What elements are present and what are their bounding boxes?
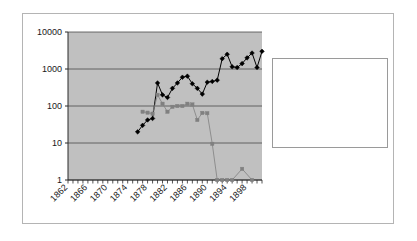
legend-box — [272, 58, 388, 148]
chart-figure: 110100100010000 186218661870187418781882… — [0, 0, 417, 241]
